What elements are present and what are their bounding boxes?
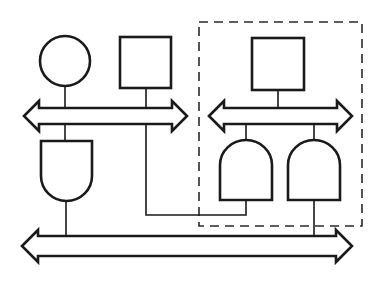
bus-bottom-double-arrow-icon — [22, 230, 352, 262]
bus-top-right-double-arrow-icon — [209, 101, 352, 131]
block-diagram — [0, 0, 385, 282]
bus-top-left-double-arrow-icon — [24, 101, 187, 131]
square-node-right — [252, 38, 304, 90]
gate-left-icon — [41, 141, 92, 201]
gate-right-2-icon — [288, 140, 340, 200]
gate-right-1-icon — [220, 140, 272, 200]
circle-node — [40, 36, 90, 86]
square-node-left — [120, 37, 171, 88]
